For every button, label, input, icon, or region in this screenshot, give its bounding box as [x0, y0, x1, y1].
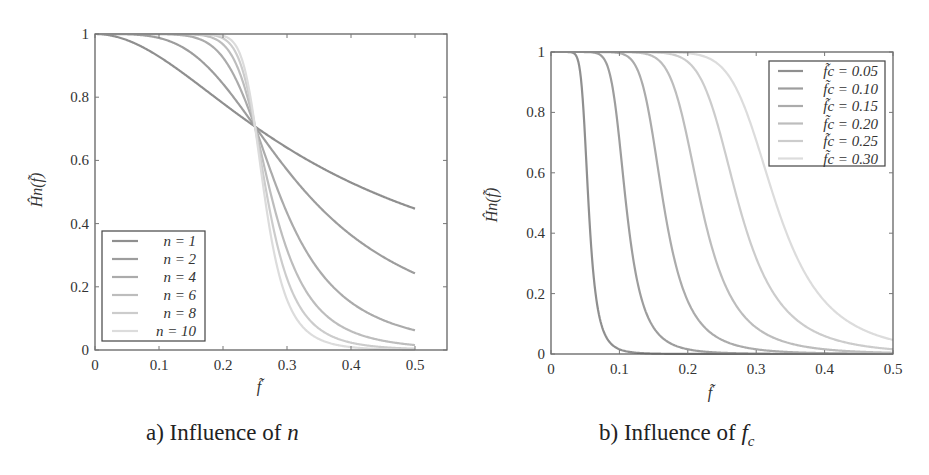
x-tick-label: 0 — [91, 357, 99, 373]
legend-entry: n = 6 — [163, 287, 196, 303]
y-tick-label: 1 — [82, 26, 90, 42]
y-tick-label: 0.2 — [526, 286, 545, 302]
legend: f̃c = 0.05f̃c = 0.10f̃c = 0.15f̃c = 0.20… — [769, 61, 885, 167]
x-tick-label: 0.5 — [406, 357, 425, 373]
caption-b: b) Influence of fc — [599, 420, 754, 450]
x-tick-label: 0.3 — [747, 361, 766, 377]
legend-entry: n = 4 — [163, 269, 196, 285]
legend-entry: f̃c = 0.30 — [823, 150, 878, 166]
y-tick-label: 0.4 — [526, 225, 545, 241]
x-tick-label: 0 — [547, 361, 555, 377]
legend-entry: n = 2 — [163, 251, 196, 267]
y-tick-label: 0.6 — [526, 165, 545, 181]
x-tick-label: 0.5 — [884, 361, 903, 377]
plot-influence-of-n: 00.10.20.30.40.500.20.40.60.81f̃Ĥn(f̃)n … — [27, 26, 447, 396]
x-axis-label: f̃ — [257, 378, 265, 396]
y-axis-label: Ĥn(f̃) — [27, 173, 46, 209]
figure-canvas: 00.10.20.30.40.500.20.40.60.81f̃Ĥn(f̃)n … — [0, 0, 929, 475]
caption-a-var: n — [287, 420, 299, 445]
y-tick-label: 0.6 — [70, 152, 89, 168]
y-tick-label: 0 — [538, 346, 546, 362]
x-tick-label: 0.2 — [214, 357, 233, 373]
legend-entry: n = 1 — [163, 233, 196, 249]
legend-entry: f̃c = 0.05 — [823, 63, 878, 79]
x-tick-label: 0.3 — [278, 357, 297, 373]
x-tick-label: 0.2 — [678, 361, 697, 377]
legend: n = 1n = 2n = 4n = 6n = 8n = 10 — [102, 231, 205, 341]
y-tick-label: 0.2 — [70, 279, 89, 295]
legend-entry: f̃c = 0.20 — [823, 115, 878, 131]
y-axis-label: Ĥn(f̃) — [482, 188, 501, 224]
legend-entry: n = 10 — [156, 323, 197, 339]
caption-b-prefix: b) Influence of — [599, 420, 741, 445]
legend-entry: f̃c = 0.10 — [823, 80, 878, 96]
y-tick-label: 0.4 — [70, 216, 89, 232]
x-tick-label: 0.4 — [815, 361, 834, 377]
caption-b-sub: c — [748, 433, 755, 449]
legend-entry: f̃c = 0.15 — [823, 98, 878, 114]
x-tick-label: 0.4 — [342, 357, 361, 373]
x-tick-label: 0.1 — [610, 361, 629, 377]
y-tick-label: 0 — [82, 342, 90, 358]
x-tick-label: 0.1 — [150, 357, 169, 373]
caption-a: a) Influence of n — [146, 420, 299, 446]
caption-a-prefix: a) Influence of — [146, 420, 287, 445]
legend-entry: f̃c = 0.25 — [823, 133, 878, 149]
y-tick-label: 0.8 — [526, 104, 545, 120]
plot-influence-of-fc: 00.10.20.30.40.500.20.40.60.81f̃Ĥn(f̃)f̃… — [482, 44, 902, 402]
y-tick-label: 0.8 — [70, 89, 89, 105]
legend-entry: n = 8 — [163, 305, 196, 321]
x-axis-label: f̃ — [708, 384, 716, 402]
y-tick-label: 1 — [538, 44, 546, 60]
